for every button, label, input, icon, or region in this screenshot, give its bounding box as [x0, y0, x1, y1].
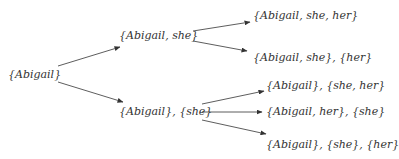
node-abigail-plus-she-her: {Abigail}, {she, her} — [266, 80, 385, 92]
node-abigail-she-plus-her: {Abigail, she}, {her} — [253, 52, 372, 64]
edge-n0-n1 — [58, 47, 120, 66]
edge-n1-n4 — [193, 41, 247, 51]
edge-n0-n2 — [58, 82, 123, 102]
node-root: {Abigail} — [8, 69, 61, 81]
edge-n1-n3 — [193, 22, 250, 31]
edge-n2-n7 — [202, 120, 266, 134]
node-abigail-her-plus-she: {Abigail, her}, {she} — [266, 106, 385, 118]
node-abigail-she-her-separate: {Abigail}, {she}, {her} — [266, 139, 399, 151]
node-abigail-she-separate: {Abigail}, {she} — [119, 106, 212, 118]
node-abigail-she-her: {Abigail, she, her} — [253, 10, 358, 22]
node-abigail-she: {Abigail, she} — [119, 30, 198, 42]
edge-n2-n5 — [202, 91, 264, 104]
